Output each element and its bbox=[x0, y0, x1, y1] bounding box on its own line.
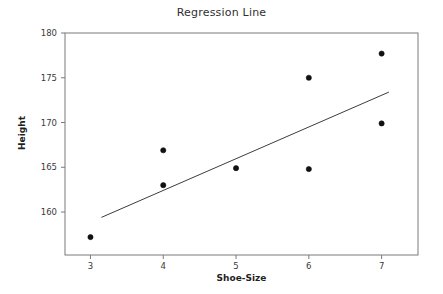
y-axis-ticks: 160165170175180 bbox=[41, 28, 65, 217]
data-point bbox=[306, 75, 311, 80]
regression-line-chart: Regression Line Height Shoe-Size 1601651… bbox=[0, 0, 443, 294]
data-points bbox=[88, 51, 384, 240]
x-axis-ticks: 34567 bbox=[88, 255, 385, 271]
data-point bbox=[379, 121, 384, 126]
x-tick-label: 7 bbox=[379, 261, 384, 271]
y-tick-label: 170 bbox=[41, 118, 57, 128]
data-point bbox=[233, 166, 238, 171]
x-tick-label: 5 bbox=[233, 261, 238, 271]
x-tick-label: 6 bbox=[306, 261, 311, 271]
plot-area: 160165170175180 34567 bbox=[0, 0, 443, 294]
x-tick-label: 3 bbox=[88, 261, 93, 271]
y-tick-label: 160 bbox=[41, 207, 57, 217]
x-tick-label: 4 bbox=[161, 261, 166, 271]
regression-line bbox=[101, 92, 388, 217]
y-tick-label: 165 bbox=[41, 162, 57, 172]
plot-frame bbox=[65, 33, 418, 255]
data-point bbox=[161, 183, 166, 188]
y-tick-label: 175 bbox=[41, 73, 57, 83]
data-point bbox=[306, 166, 311, 171]
data-point bbox=[88, 234, 93, 239]
data-point bbox=[379, 51, 384, 56]
data-point bbox=[161, 148, 166, 153]
y-tick-label: 180 bbox=[41, 28, 57, 38]
